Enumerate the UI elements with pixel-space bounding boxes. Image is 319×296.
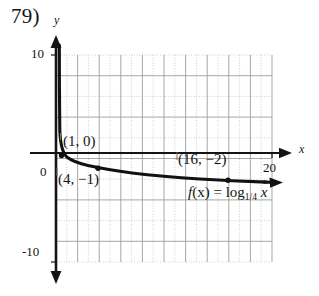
function-label: f(x) = log1/4 x [188,185,267,202]
x-axis [30,148,292,158]
point-label-16-neg2: (16, −2) [178,152,226,167]
point-label-1-0: (1, 0) [63,134,96,149]
function-curve [59,45,283,188]
function-variable: x [261,184,268,200]
log-base: 1/4 [245,192,257,202]
function-argument: (x) [192,184,210,200]
point-16-neg2 [225,178,230,183]
problem-number: 79) [11,6,40,27]
equals-sign: = [213,184,221,200]
grid-solid [56,55,272,262]
x-tick-label-20: 20 [263,161,276,174]
y-tick-label-10: 10 [31,47,44,60]
log-operator: log [226,184,245,200]
y-tick-label-neg10: -10 [22,245,39,258]
x-axis-label: x [299,143,304,155]
graph-figure: 79) y x 10 0 -10 20 (1, 0) (4, −1) (16, … [0,0,319,296]
point-label-4-neg1: (4, −1) [58,172,99,187]
y-axis-label: y [54,14,59,26]
coordinate-plane [0,0,319,296]
point-1-0 [59,153,64,158]
y-tick-label-0: 0 [40,165,47,178]
